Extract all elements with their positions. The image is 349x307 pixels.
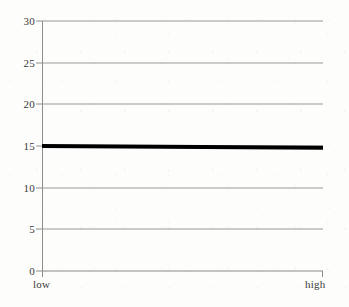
y-tick-15: [36, 146, 42, 147]
gridline-15: [42, 146, 323, 147]
y-tick-label-25: 25: [24, 57, 35, 68]
line-chart-figure: 30 25 20 15 10 5 0 low high: [0, 0, 349, 307]
plot-area: [42, 21, 323, 271]
x-tick-label-low: low: [33, 279, 50, 290]
y-tick-label-30: 30: [24, 16, 35, 27]
y-tick-20: [36, 104, 42, 105]
gridline-30: [42, 21, 323, 22]
y-tick-25: [36, 62, 42, 63]
gridline-10: [42, 187, 323, 188]
y-tick-5: [36, 229, 42, 230]
y-tick-label-20: 20: [24, 99, 35, 110]
y-tick-30: [36, 21, 42, 22]
x-tick-label-high: high: [305, 279, 325, 290]
y-axis-line: [42, 21, 43, 272]
y-tick-label-5: 5: [29, 224, 35, 235]
gridline-5: [42, 229, 323, 230]
y-tick-label-15: 15: [24, 141, 35, 152]
y-tick-label-10: 10: [24, 182, 35, 193]
y-tick-label-0: 0: [29, 266, 35, 277]
y-tick-10: [36, 187, 42, 188]
gridline-25: [42, 62, 323, 63]
gridline-20: [42, 104, 323, 105]
gridline-0: [42, 271, 323, 272]
x-tick-low: [42, 271, 43, 277]
x-tick-high: [322, 271, 323, 277]
